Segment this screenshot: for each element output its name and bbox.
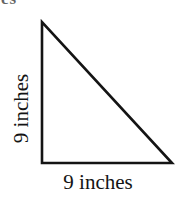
vertical-side-label: 9 inches bbox=[9, 42, 34, 176]
triangle-figure: es 9 inches 9 inches bbox=[0, 0, 178, 208]
base-side-label: 9 inches bbox=[38, 170, 158, 195]
triangle-outline bbox=[42, 22, 172, 163]
